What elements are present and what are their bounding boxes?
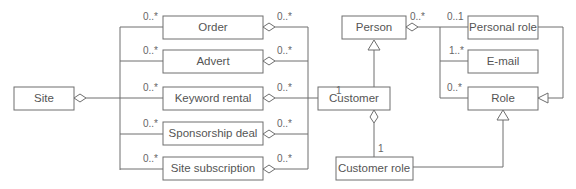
class-site-subscription-label: Site subscription bbox=[171, 162, 255, 174]
class-email: E-mail bbox=[468, 50, 538, 73]
class-personal-role: Personal role bbox=[468, 16, 538, 39]
mult-site-subscription: 0..* bbox=[143, 153, 158, 164]
mult-email-end: 1..* bbox=[449, 45, 464, 56]
mult-sponsorship-customer: 0..* bbox=[277, 118, 292, 129]
class-role: Role bbox=[468, 87, 538, 110]
class-site-subscription: Site subscription bbox=[163, 157, 263, 180]
mult-site-advert: 0..* bbox=[143, 45, 158, 56]
class-sponsorship-deal-label: Sponsorship deal bbox=[169, 127, 258, 139]
class-email-label: E-mail bbox=[487, 55, 520, 67]
class-customer-role: Customer role bbox=[336, 157, 413, 180]
personal-role-generalization bbox=[538, 27, 563, 103]
class-site: Site bbox=[14, 87, 74, 110]
mult-subscription-customer: 0..* bbox=[277, 153, 292, 164]
mult-site-sponsorship: 0..* bbox=[143, 118, 158, 129]
class-site-label: Site bbox=[34, 92, 54, 104]
class-order-label: Order bbox=[198, 21, 228, 33]
class-customer-role-label: Customer role bbox=[338, 162, 410, 174]
class-personal-role-label: Personal role bbox=[469, 21, 537, 33]
class-person-label: Person bbox=[356, 21, 392, 33]
class-order: Order bbox=[163, 16, 263, 39]
class-role-label: Role bbox=[491, 92, 515, 104]
mult-advert-customer: 0..* bbox=[277, 45, 292, 56]
mult-site-keyword: 0..* bbox=[143, 82, 158, 93]
customer-role-generalization bbox=[413, 110, 509, 167]
class-keyword-rental-label: Keyword rental bbox=[175, 92, 252, 104]
class-keyword-rental: Keyword rental bbox=[163, 87, 263, 110]
class-person: Person bbox=[342, 16, 406, 39]
class-sponsorship-deal: Sponsorship deal bbox=[163, 122, 263, 145]
class-customer: Customer bbox=[318, 87, 390, 110]
mult-order-customer: 0..* bbox=[277, 11, 292, 22]
person-generalization bbox=[368, 40, 380, 87]
class-advert: Advert bbox=[163, 50, 263, 73]
mult-site-order: 0..* bbox=[143, 11, 158, 22]
class-advert-label: Advert bbox=[196, 55, 230, 67]
mult-customer-role-end: 1 bbox=[378, 143, 384, 154]
mult-customer-end: 1 bbox=[336, 85, 342, 96]
customer-role-aggregation bbox=[370, 110, 378, 157]
mult-role-end: 0..* bbox=[447, 82, 462, 93]
mult-personal-role-end: 0..1 bbox=[447, 11, 464, 22]
mult-person-end: 0..* bbox=[410, 11, 425, 22]
site-aggregation bbox=[74, 94, 120, 102]
mult-keyword-customer: 0..* bbox=[277, 82, 292, 93]
